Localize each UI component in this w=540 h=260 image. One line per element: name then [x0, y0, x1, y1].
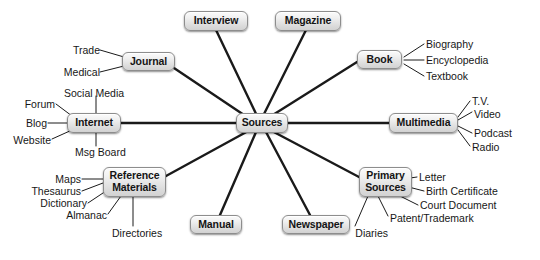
leaf-forum: Forum [25, 99, 55, 110]
node-magazine-label: Magazine [285, 15, 331, 26]
leaf-letter: Letter [419, 172, 446, 183]
node-journal-label: Journal [130, 56, 167, 67]
node-sources: Sources [236, 113, 288, 133]
leaf-tv: T.V. [472, 96, 489, 107]
edge-sources-newspaper [266, 132, 310, 215]
leaf-court-document: Court Document [420, 200, 496, 211]
node-sources-label: Sources [242, 117, 283, 128]
edge-primary-diaries [355, 196, 368, 226]
edge-sources-primary [270, 130, 359, 177]
leaf-birth-certificate: Birth Certificate [426, 186, 498, 197]
node-book: Book [357, 50, 402, 69]
node-magazine: Magazine [275, 11, 341, 31]
node-interview: Interview [184, 11, 248, 31]
node-manual: Manual [190, 215, 242, 234]
edge-book-biography [404, 44, 424, 57]
node-book-label: Book [367, 54, 393, 65]
node-newspaper: Newspaper [282, 215, 350, 234]
leaf-trade: Trade [73, 45, 100, 56]
leaf-diaries: Diaries [355, 228, 388, 239]
leaf-biography: Biography [426, 39, 473, 50]
node-newspaper-label: Newspaper [288, 219, 343, 230]
leaf-textbook: Textbook [426, 71, 468, 82]
mind-map-canvas: Sources Interview Magazine Journal Book … [0, 0, 540, 260]
edge-book-textbook [404, 64, 424, 76]
edge-sources-magazine [262, 30, 306, 118]
leaf-patent-trademark: Patent/Trademark [390, 213, 474, 224]
leaf-almanac: Almanac [66, 210, 107, 221]
edge-sources-journal [168, 64, 250, 119]
leaf-website: Website [13, 135, 51, 146]
edge-primary-patent-trademark [378, 196, 388, 216]
leaf-maps: Maps [55, 174, 81, 185]
leaf-medical: Medical [64, 67, 100, 78]
leaf-radio: Radio [472, 142, 499, 153]
edge-journal-medical [100, 66, 124, 72]
leaf-video: Video [474, 109, 501, 120]
edge-multimedia-radio [458, 130, 470, 146]
edge-multimedia-video [458, 112, 472, 120]
node-primary-sources: Primary Sources [359, 167, 412, 197]
leaf-blog: Blog [26, 118, 47, 129]
edge-reference-almanac [108, 196, 121, 214]
leaf-dictionary: Dictionary [40, 198, 87, 209]
node-manual-label: Manual [198, 219, 234, 230]
node-multimedia-label: Multimedia [397, 117, 451, 128]
edge-sources-book [268, 62, 357, 118]
node-multimedia: Multimedia [389, 113, 458, 133]
node-journal: Journal [122, 52, 175, 71]
edge-multimedia-tv [458, 101, 470, 117]
edge-sources-reference [166, 130, 250, 176]
node-primary-sources-line2: Sources [365, 182, 406, 194]
node-reference-materials-line2: Materials [112, 182, 157, 194]
node-internet-label: Internet [75, 117, 113, 128]
leaf-directories: Directories [112, 228, 162, 239]
leaf-social-media: Social Media [64, 88, 124, 99]
edge-multimedia-podcast [458, 126, 472, 133]
edge-sources-manual [220, 132, 256, 215]
leaf-podcast: Podcast [474, 128, 512, 139]
leaf-msg-board: Msg Board [75, 147, 126, 158]
leaf-thesaurus: Thesaurus [31, 186, 81, 197]
node-reference-materials: Reference Materials [103, 167, 166, 197]
leaf-encyclopedia: Encyclopedia [426, 55, 488, 66]
node-internet: Internet [67, 113, 121, 133]
edge-reference-thesaurus [82, 183, 103, 191]
edge-journal-trade [100, 50, 124, 57]
node-interview-label: Interview [194, 15, 239, 26]
edge-sources-interview [216, 30, 258, 118]
